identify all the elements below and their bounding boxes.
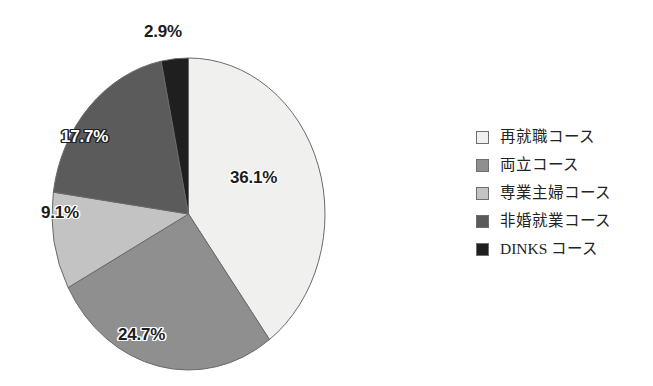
slice-value-label-1: 24.7% xyxy=(118,325,165,345)
legend-label-1: 両立コース xyxy=(500,157,579,173)
legend-swatch-icon-3 xyxy=(476,215,489,228)
pie-slices xyxy=(52,58,325,370)
legend-label-4: DINKS コース xyxy=(500,241,598,257)
legend-item-0: 再就職コース xyxy=(476,123,651,151)
slice-value-label-2: 9.1% xyxy=(41,203,79,223)
legend-item-3: 非婚就業コース xyxy=(476,207,651,235)
slice-value-label-0: 36.1% xyxy=(230,168,277,188)
legend-label-3: 非婚就業コース xyxy=(500,213,611,229)
legend-label-2: 専業主婦コース xyxy=(500,185,611,201)
pie-svg xyxy=(0,0,400,386)
slice-value-label-3: 17.7% xyxy=(61,127,108,147)
legend-swatch-icon-0 xyxy=(476,131,489,144)
legend-label-0: 再就職コース xyxy=(500,129,595,145)
slice-value-label-4: 2.9% xyxy=(144,22,182,42)
legend-item-2: 専業主婦コース xyxy=(476,179,651,207)
pie-chart-figure: 36.1% 24.7% 9.1% 17.7% 2.9% 再就職コース 両立コース… xyxy=(0,0,653,386)
legend-item-4: DINKS コース xyxy=(476,235,651,263)
legend-swatch-icon-2 xyxy=(476,187,489,200)
chart-legend: 再就職コース 両立コース 専業主婦コース 非婚就業コース DINKS コース xyxy=(476,123,651,263)
legend-item-1: 両立コース xyxy=(476,151,651,179)
pie-plot-area: 36.1% 24.7% 9.1% 17.7% 2.9% xyxy=(0,0,400,386)
legend-swatch-icon-4 xyxy=(476,243,489,256)
legend-swatch-icon-1 xyxy=(476,159,489,172)
